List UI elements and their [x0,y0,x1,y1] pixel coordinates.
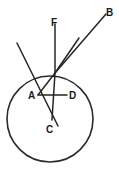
segment-tangent-to-c-line [52,73,55,120]
point-label-a: A [28,91,35,101]
figure-canvas [0,0,119,177]
point-label-d: D [69,91,76,101]
point-label-c: C [46,125,53,135]
point-label-f: F [51,18,57,28]
point-label-b: B [106,8,113,18]
circle-shape [7,76,93,162]
ray-to-b-line [55,14,106,73]
geometry-figure: F B A D C [0,0,119,177]
